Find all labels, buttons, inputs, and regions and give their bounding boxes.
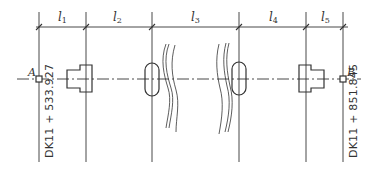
point-b-marker <box>340 76 346 82</box>
station-a-label: DK11 + 533.927 <box>43 64 56 158</box>
span-label-l2: l2 <box>113 10 122 25</box>
span-label-l3: l3 <box>191 10 200 25</box>
break-line-right <box>217 43 232 134</box>
left-abutment <box>67 65 92 92</box>
right-abutment <box>299 65 324 92</box>
span-label-l4: l4 <box>269 10 278 25</box>
point-a-marker <box>36 76 42 82</box>
break-line-left <box>163 44 178 132</box>
point-a-label: A <box>27 66 36 79</box>
span-label-l1: l1 <box>58 10 67 25</box>
span-label-l5: l5 <box>321 10 330 25</box>
bridge-layout-diagram: l1 l2 l3 l4 l5 A B DK11 + 533.927 DK11 +… <box>0 0 371 176</box>
station-b-label: DK11 + 851.845 <box>347 64 360 158</box>
